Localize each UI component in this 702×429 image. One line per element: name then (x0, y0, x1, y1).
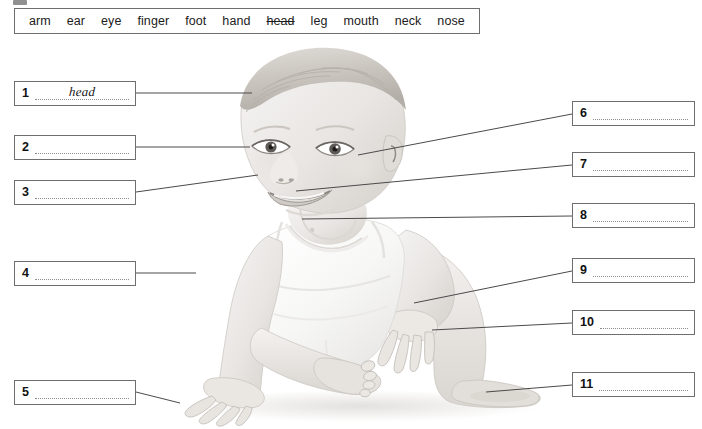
connector-9 (414, 271, 572, 303)
worksheet-page: armeareyefingerfoothandheadlegmouthneckn… (0, 0, 702, 429)
answer-box-3[interactable]: 3 (14, 180, 136, 205)
answer-box-11[interactable]: 11 (572, 372, 695, 397)
answer-number-8: 8 (580, 209, 587, 222)
answer-number-9: 9 (580, 264, 587, 277)
answer-box-4[interactable]: 4 (14, 261, 136, 286)
connector-10 (432, 323, 572, 330)
answer-box-8[interactable]: 8 (572, 203, 695, 228)
connector-7 (296, 165, 572, 191)
answer-line-3[interactable] (35, 181, 129, 204)
answer-number-2: 2 (22, 141, 29, 154)
answer-number-5: 5 (22, 386, 29, 399)
connector-8 (302, 216, 572, 219)
answer-line-8[interactable] (593, 204, 688, 227)
answer-number-4: 4 (22, 267, 29, 280)
answer-number-6: 6 (580, 107, 587, 120)
connector-5 (136, 392, 180, 403)
connector-11 (486, 385, 572, 392)
answer-box-6[interactable]: 6 (572, 101, 695, 126)
connector-3 (136, 175, 258, 192)
answer-box-5[interactable]: 5 (14, 380, 136, 405)
answer-value-1: head (69, 84, 96, 100)
answer-line-6[interactable] (593, 102, 688, 125)
connector-6 (358, 114, 572, 155)
answer-line-4[interactable] (35, 262, 129, 285)
answer-line-2[interactable] (35, 136, 129, 159)
answer-number-10: 10 (580, 316, 594, 329)
answer-number-7: 7 (580, 158, 587, 171)
answer-line-7[interactable] (593, 153, 688, 176)
answer-line-11[interactable] (599, 373, 688, 396)
answer-line-1[interactable]: head (35, 82, 129, 105)
answer-box-9[interactable]: 9 (572, 258, 695, 283)
answer-box-7[interactable]: 7 (572, 152, 695, 177)
answer-box-2[interactable]: 2 (14, 135, 136, 160)
answer-box-1[interactable]: 1 head (14, 81, 136, 106)
answer-line-5[interactable] (35, 381, 129, 404)
answer-box-10[interactable]: 10 (572, 310, 695, 335)
answer-line-9[interactable] (593, 259, 688, 282)
answer-number-1: 1 (22, 87, 29, 100)
answer-number-3: 3 (22, 186, 29, 199)
answer-line-10[interactable] (600, 311, 688, 334)
answer-number-11: 11 (580, 378, 593, 391)
